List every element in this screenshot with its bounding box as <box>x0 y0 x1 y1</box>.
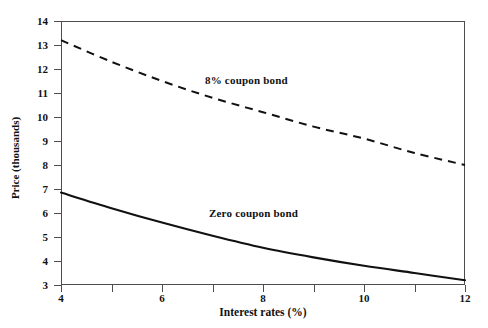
series-curves <box>0 0 488 328</box>
curve-8-percent-coupon-bond <box>61 40 465 165</box>
bond-price-interest-rate-chart: 14 13 12 11 10 9 8 7 6 5 4 3 4 6 8 10 12… <box>0 0 488 328</box>
curve-zero-coupon-bond <box>61 193 465 281</box>
